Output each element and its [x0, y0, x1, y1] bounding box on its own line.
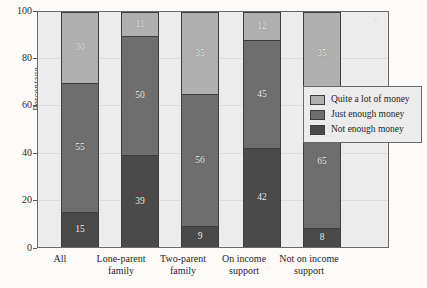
bar-segment: 9 [181, 226, 219, 247]
bar-value-label: 42 [257, 193, 267, 203]
bar-value-label: 56 [195, 156, 205, 166]
legend-item-label: Just enough money [331, 110, 404, 120]
x-tick-line-1: Not on income [264, 253, 354, 265]
bar-edge [280, 12, 281, 247]
bar-value-label: 12 [257, 22, 267, 32]
y-tick-label-20: 20 [2, 195, 32, 205]
bar-value-label: 15 [75, 225, 85, 235]
bar-edge [181, 12, 182, 247]
legend-item-label: Quite a lot of money [331, 95, 410, 105]
y-tick-label-60: 60 [2, 100, 32, 110]
bar-edge [98, 12, 99, 247]
legend-swatch-icon [310, 110, 325, 120]
chart-legend: Quite a lot of money Just enough money N… [303, 86, 422, 143]
y-tick-label-80: 80 [2, 53, 32, 63]
bar-value-label: 9 [198, 232, 203, 242]
legend-item-just-enough-money: Just enough money [310, 107, 416, 122]
y-tick-label-100: 100 [2, 6, 32, 16]
bar-value-label: 39 [135, 197, 145, 207]
bar-segment: 15 [61, 212, 99, 247]
bar-segment: 8 [303, 228, 341, 247]
bar-segment: 45 [243, 40, 281, 148]
bar-segment: 39 [121, 155, 159, 247]
x-tick-line-2: support [264, 265, 354, 277]
bar-value-label: 8 [320, 233, 325, 243]
bar-value-label: 30 [75, 43, 85, 53]
bar-value-label: 50 [135, 91, 145, 101]
legend-item-not-enough-money: Not enough money [310, 122, 416, 137]
bar-value-label: 11 [135, 20, 144, 30]
bar-segment: 56 [181, 94, 219, 226]
bar-group: 155530 [61, 12, 99, 247]
bar-edge [61, 12, 62, 247]
legend-swatch-icon [310, 125, 325, 135]
bar-value-label: 35 [195, 49, 205, 59]
x-tick-label-not-on-income-support: Not on income support [264, 253, 354, 276]
bar-edge [243, 12, 244, 247]
bar-segment: 12 [243, 12, 281, 40]
bar-group: 395011 [121, 12, 159, 247]
bar-value-label: 45 [257, 90, 267, 100]
bar-value-label: 55 [75, 143, 85, 153]
legend-swatch-icon [310, 95, 325, 105]
bar-segment: 35 [181, 12, 219, 94]
bar-segment: 55 [61, 83, 99, 212]
bar-value-label: 35 [317, 49, 327, 59]
bar-segment: 50 [121, 36, 159, 156]
chart-page: Percentage 100 80 60 40 20 0 15553039501… [0, 0, 427, 288]
y-tick-label-40: 40 [2, 148, 32, 158]
bar-group: 424512 [243, 12, 281, 247]
legend-item-quite-a-lot-of-money: Quite a lot of money [310, 92, 416, 107]
bar-segment: 35 [303, 12, 341, 94]
bar-edge [218, 12, 219, 247]
y-tick-label-0: 0 [2, 243, 32, 253]
bar-edge [158, 12, 159, 247]
y-tick-mark-0 [33, 248, 37, 249]
bar-segment: 30 [61, 12, 99, 83]
legend-item-label: Not enough money [331, 125, 404, 135]
bar-segment: 11 [121, 12, 159, 36]
bar-edge [121, 12, 122, 247]
bar-segment: 42 [243, 148, 281, 247]
bar-value-label: 65 [317, 157, 327, 167]
bar-group: 95635 [181, 12, 219, 247]
